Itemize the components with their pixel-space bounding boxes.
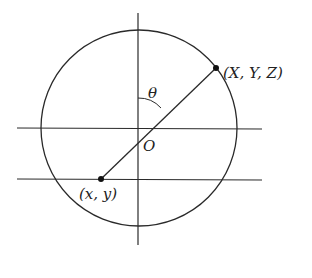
plane-point-dot [98, 176, 104, 182]
origin-label: O [143, 137, 155, 155]
sphere-point-label: (X, Y, Z) [223, 64, 283, 82]
projection-plane-line [17, 179, 262, 180]
plane-point-label: (x, y) [79, 185, 117, 203]
sphere-point-dot [213, 65, 219, 71]
equator-line [17, 128, 262, 129]
theta-label: θ [148, 84, 157, 102]
projection-ray [101, 68, 216, 179]
stereographic-diagram: θ O (X, Y, Z) (x, y) [0, 0, 312, 278]
